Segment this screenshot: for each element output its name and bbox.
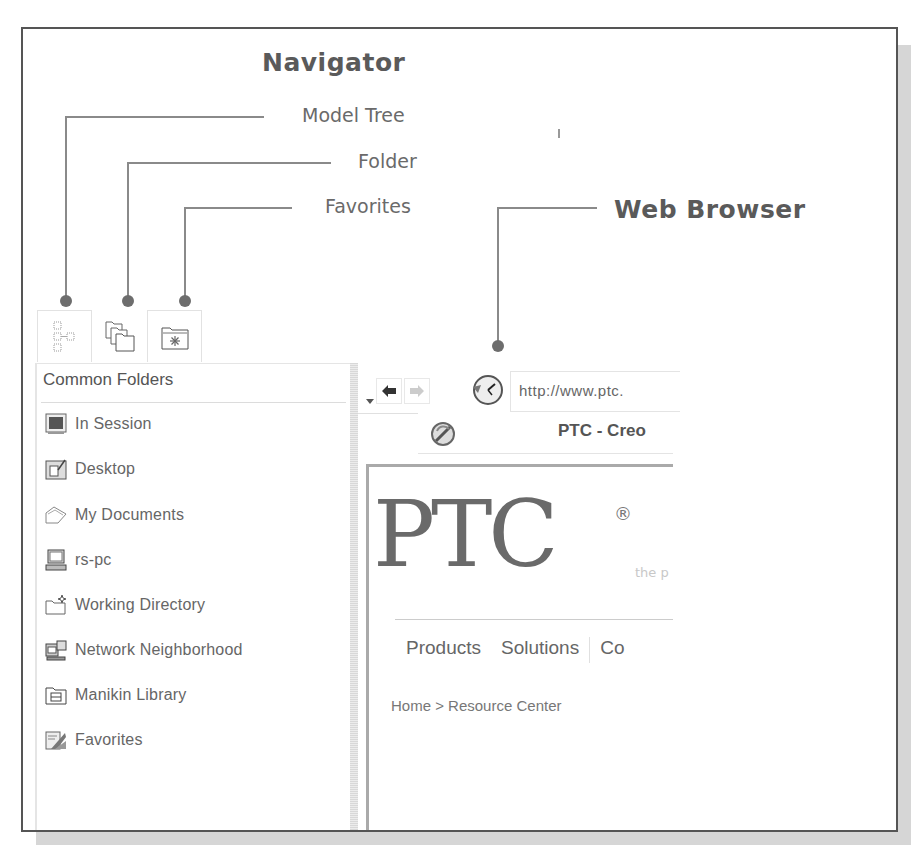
nav-item-in-session[interactable]: In Session bbox=[45, 411, 152, 437]
tab-favorites[interactable] bbox=[147, 310, 202, 362]
model-tree-leader-dot bbox=[60, 295, 72, 307]
ptc-logo[interactable]: PTC bbox=[373, 489, 555, 581]
stray-mark bbox=[558, 129, 560, 138]
model-tree-callout: Model Tree bbox=[302, 104, 405, 126]
breadcrumb[interactable]: Home > Resource Center bbox=[391, 697, 562, 714]
model-tree-leader-h bbox=[65, 116, 264, 118]
nav-item-desktop[interactable]: Desktop bbox=[45, 456, 135, 482]
tab-row-bottom-rule bbox=[418, 453, 673, 454]
web-browser-callout: Web Browser bbox=[614, 195, 806, 224]
frame-shadow-right bbox=[896, 45, 911, 845]
registered-mark: ® bbox=[614, 503, 632, 524]
folders-icon bbox=[102, 318, 138, 354]
folder-callout: Folder bbox=[358, 150, 417, 172]
folder-leader-v bbox=[127, 162, 129, 300]
panel-splitter[interactable] bbox=[350, 363, 358, 830]
nav-item-rs-pc[interactable]: rs-pc bbox=[45, 547, 112, 573]
web-browser-panel: http://www.ptc. PTC - Creo PTC ® the p P… bbox=[358, 363, 673, 830]
browser-menu-dropdown-icon[interactable] bbox=[366, 399, 374, 404]
computer-icon bbox=[45, 549, 67, 571]
logo-divider bbox=[395, 619, 673, 620]
web-browser-leader-dot bbox=[492, 340, 504, 352]
desktop-icon bbox=[45, 458, 67, 480]
favorites-leader-v bbox=[184, 207, 186, 300]
back-arrow-icon bbox=[381, 384, 397, 398]
browser-tab-title[interactable]: PTC - Creo bbox=[558, 421, 646, 441]
common-folders-header: Common Folders bbox=[43, 370, 173, 390]
my-documents-icon bbox=[45, 504, 67, 526]
favorites-leader-h bbox=[184, 207, 292, 209]
favorites-leader-dot bbox=[179, 295, 191, 307]
web-page-content: PTC ® the p Products Solutions Co Home >… bbox=[366, 464, 673, 830]
favorites-icon bbox=[45, 729, 67, 751]
web-browser-leader-h bbox=[497, 207, 597, 209]
nav-item-manikin-library[interactable]: Manikin Library bbox=[45, 682, 186, 708]
browser-tab-row: PTC - Creo bbox=[358, 413, 673, 455]
model-tree-icon bbox=[52, 320, 78, 354]
nav-item-network-neighborhood[interactable]: Network Neighborhood bbox=[45, 637, 243, 663]
navigator-callout: Navigator bbox=[262, 48, 405, 77]
back-button[interactable] bbox=[376, 378, 402, 404]
forward-button[interactable] bbox=[404, 378, 430, 404]
ptc-tagline: the p bbox=[635, 565, 669, 580]
history-button[interactable] bbox=[470, 373, 504, 411]
folder-leader-h bbox=[127, 162, 331, 164]
web-browser-leader-v bbox=[497, 207, 499, 345]
nav-item-working-directory[interactable]: Working Directory bbox=[45, 592, 205, 618]
site-nav: Products Solutions Co bbox=[406, 637, 644, 663]
working-directory-icon bbox=[45, 594, 67, 616]
favorites-folder-icon bbox=[158, 322, 192, 352]
tab-folder-browser[interactable] bbox=[92, 310, 147, 362]
nav-link-products[interactable]: Products bbox=[406, 637, 481, 663]
tab-model-tree[interactable] bbox=[37, 310, 92, 362]
tab-row-rule bbox=[358, 413, 418, 414]
history-clock-icon bbox=[470, 373, 504, 407]
nav-item-my-documents[interactable]: My Documents bbox=[45, 502, 184, 528]
network-icon bbox=[45, 639, 67, 661]
model-tree-leader-v bbox=[65, 116, 67, 300]
forward-arrow-icon bbox=[409, 384, 425, 398]
manikin-library-icon bbox=[45, 684, 67, 706]
url-field[interactable]: http://www.ptc. bbox=[510, 371, 680, 412]
nav-separator bbox=[589, 637, 590, 663]
browser-toolbar: http://www.ptc. bbox=[358, 363, 673, 413]
folder-leader-dot bbox=[122, 295, 134, 307]
in-session-icon bbox=[45, 413, 67, 435]
frame-shadow-bottom bbox=[36, 830, 911, 845]
nav-link-co[interactable]: Co bbox=[600, 637, 624, 663]
navigator-panel: Common Folders In Session Desktop My Doc… bbox=[35, 363, 350, 830]
nav-link-solutions[interactable]: Solutions bbox=[501, 637, 579, 663]
refresh-stop-icon[interactable] bbox=[428, 419, 458, 449]
nav-item-favorites[interactable]: Favorites bbox=[45, 727, 143, 753]
favorites-callout: Favorites bbox=[325, 195, 411, 217]
header-divider bbox=[41, 402, 346, 403]
